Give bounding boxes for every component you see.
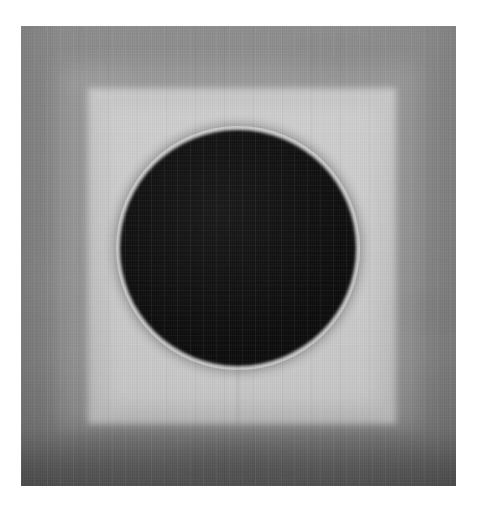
circle-brush-banding bbox=[120, 130, 356, 366]
artwork-plate bbox=[21, 26, 456, 486]
bottom-dark-band bbox=[21, 430, 456, 486]
page-root bbox=[0, 0, 480, 511]
